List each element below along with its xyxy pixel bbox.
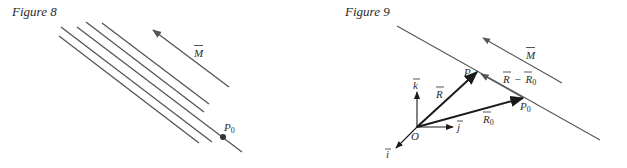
figures-canvas: M P0 M k j i O R R0 P P0 R [0,0,627,168]
vector-m-arrow [153,30,229,87]
origin-label: O [411,130,419,142]
parallel-line-1 [59,36,199,143]
parallel-line-4 [86,22,204,112]
point-p0-label-fig9: P0 [519,100,531,114]
vector-m-label: M [193,47,204,59]
figure-8: M P0 [59,22,242,152]
vector-r-minus-r0-label: R − R0 [502,73,536,87]
vector-m-label-fig9: M [525,49,536,61]
line-through-p0 [397,26,600,140]
point-p0-label: P0 [223,121,235,135]
parallel-line-5 [102,23,209,104]
i-label: i [386,148,389,160]
figure-9: M k j i O R R0 P P0 R − R0 [385,26,600,160]
j-label: j [455,121,460,133]
vector-r0-label: R0 [482,113,494,127]
parallel-line-3 [77,27,242,152]
parallel-lines [59,22,242,152]
k-label: k [413,79,419,91]
vector-r-label: R [435,88,443,100]
parallel-line-2 [61,27,212,142]
point-p-label: P [463,66,471,78]
point-p0-dot [220,134,226,140]
